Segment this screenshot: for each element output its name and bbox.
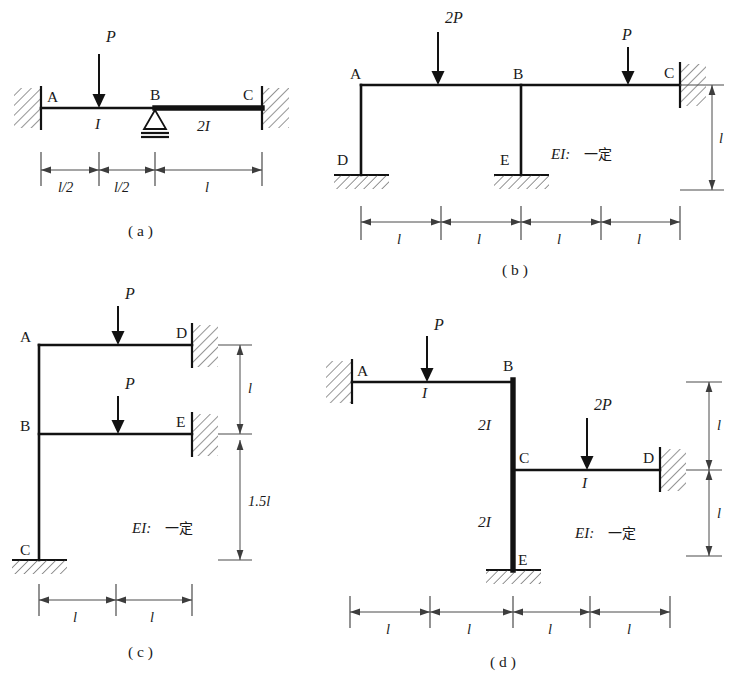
- panel-a: P A B C I 2I l/2 l/2 l ( a ): [14, 28, 289, 240]
- panel-d: P 2P A B C D E I 2I 2I I EI: 一定: [326, 316, 722, 671]
- support-fixed-wall-right-E-c: [192, 412, 218, 457]
- node-label-B-b: B: [513, 65, 523, 82]
- dim-label-d-h3: l: [548, 621, 552, 637]
- dim-label-d-v1: l: [717, 417, 721, 433]
- support-fixed-ground-D-b: [334, 175, 389, 189]
- node-label-E-b: E: [500, 151, 509, 168]
- load-label-2P-b: 2P: [445, 9, 463, 26]
- note-ei-label-c: EI:: [131, 520, 151, 536]
- stiffness-label-I-a: I: [94, 115, 101, 132]
- node-label-B-d: B: [503, 357, 513, 374]
- dim-label-d-h4: l: [627, 621, 631, 637]
- structural-figure-sheet: P A B C I 2I l/2 l/2 l ( a ): [0, 0, 742, 689]
- dim-label-a-half2: l/2: [114, 179, 129, 195]
- figure-canvas: P A B C I 2I l/2 l/2 l ( a ): [0, 0, 742, 689]
- node-label-A-a: A: [47, 88, 59, 105]
- panel-b: 2P P A B C D E EI: 一定 l: [334, 9, 724, 279]
- dim-label-b-vertical: l: [719, 130, 723, 146]
- dim-vertical-group-d: [686, 382, 722, 556]
- dim-label-c-h2: l: [150, 609, 154, 625]
- dim-label-d-v2: l: [717, 505, 721, 521]
- stiffness-label-2I-lower-d: 2I: [478, 513, 492, 530]
- note-ei-label-d: EI:: [574, 525, 594, 541]
- support-fixed-wall-right-D-d: [660, 447, 686, 492]
- load-arrow-P-mid-c: [112, 396, 125, 434]
- node-label-A-d: A: [357, 362, 369, 379]
- load-label-P-top-c: P: [124, 285, 135, 302]
- node-label-C-b: C: [664, 64, 674, 81]
- load-arrow-P-b: [622, 47, 635, 85]
- stiffness-label-2I-upper-d: 2I: [478, 416, 492, 433]
- dim-group-a: [41, 167, 262, 174]
- note-ei-cn-b: 一定: [584, 146, 612, 162]
- node-label-E-d: E: [518, 551, 527, 568]
- load-label-P-b: P: [621, 26, 632, 43]
- node-label-C-d: C: [519, 449, 529, 466]
- node-label-C-c: C: [20, 541, 30, 558]
- dim-label-b-4: l: [637, 231, 641, 247]
- node-label-E-c: E: [176, 413, 185, 430]
- node-label-B-c: B: [20, 417, 30, 434]
- node-label-A-b: A: [350, 65, 362, 82]
- dim-label-c-v2: 1.5l: [248, 493, 270, 509]
- dim-horizontal-group-d: [350, 609, 670, 616]
- load-arrow-P-a: [93, 54, 106, 108]
- node-label-D-c: D: [176, 324, 187, 341]
- note-ei-cn-d: 一定: [608, 525, 636, 541]
- dim-label-c-h1: l: [73, 609, 77, 625]
- support-fixed-wall-right-D-c: [192, 323, 218, 368]
- node-label-C-a: C: [243, 86, 253, 103]
- load-label-P-a: P: [105, 28, 116, 45]
- dim-label-d-h1: l: [386, 621, 390, 637]
- panel-caption-d: ( d ): [490, 653, 516, 671]
- stiffness-label-I-top-d: I: [421, 384, 428, 401]
- panel-caption-b: ( b ): [502, 261, 528, 279]
- stiffness-label-2I-a: 2I: [197, 117, 211, 134]
- dim-label-d-h2: l: [467, 621, 471, 637]
- load-arrow-P-top-c: [112, 306, 125, 345]
- load-arrow-2P-b: [432, 32, 445, 85]
- load-arrow-P-d: [421, 336, 434, 382]
- support-fixed-wall-right-a: [262, 86, 289, 130]
- dim-label-a-l: l: [205, 179, 209, 195]
- node-label-D-d: D: [643, 449, 654, 466]
- node-label-A-c: A: [20, 328, 32, 345]
- dim-label-c-v1: l: [248, 380, 252, 396]
- panel-c: P P A B C D E EI: 一定 l 1.5l: [12, 285, 270, 661]
- stiffness-label-I-right-d: I: [581, 474, 588, 491]
- note-ei-cn-c: 一定: [165, 520, 193, 536]
- dim-label-b-2: l: [477, 231, 481, 247]
- node-label-D-b: D: [337, 151, 348, 168]
- support-fixed-wall-left-a: [14, 86, 41, 130]
- load-label-P-mid-c: P: [124, 375, 135, 392]
- load-label-2P-d: 2P: [594, 396, 612, 413]
- support-pin-triangle-b-node-a: [141, 110, 169, 137]
- support-fixed-ground-E-d: [486, 570, 541, 584]
- node-label-B-a: B: [150, 86, 160, 103]
- load-arrow-2P-d: [581, 418, 594, 470]
- support-fixed-wall-left-A-d: [326, 359, 352, 404]
- load-label-P-d: P: [433, 316, 444, 333]
- dim-label-b-1: l: [397, 231, 401, 247]
- dim-label-b-3: l: [557, 231, 561, 247]
- support-fixed-ground-C-c: [12, 560, 67, 574]
- support-fixed-ground-E-b: [494, 175, 549, 189]
- note-ei-label-b: EI:: [550, 146, 570, 162]
- dim-label-a-half1: l/2: [58, 179, 73, 195]
- panel-caption-c: ( c ): [128, 643, 153, 661]
- dim-vertical-group-c: [218, 345, 252, 560]
- panel-caption-a: ( a ): [128, 222, 153, 240]
